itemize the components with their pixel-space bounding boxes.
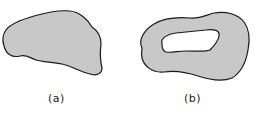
diagram-canvas [0, 0, 259, 113]
figure-label-b: (b) [184, 92, 201, 105]
region-b-shape [141, 12, 249, 80]
region-a-shape [3, 11, 102, 75]
figure-label-a: (a) [48, 92, 65, 105]
